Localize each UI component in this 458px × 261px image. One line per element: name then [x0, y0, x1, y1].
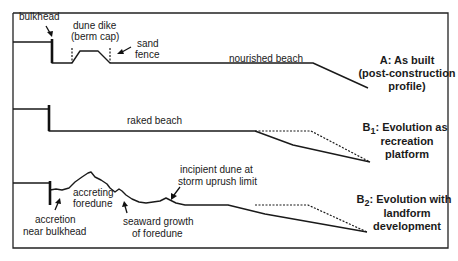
- label-seaward-growth: seaward growth: [123, 216, 194, 227]
- panel-b2-original-profile: [255, 205, 367, 232]
- caption-a-line1: A: As built: [380, 54, 435, 66]
- label-fence: fence: [135, 49, 160, 60]
- label-near-bulkhead: near bulkhead: [23, 226, 86, 237]
- beach-profile-diagram: bulkhead dune dike (berm cap) sand fence…: [0, 0, 458, 261]
- panel-b1: raked beach B1: Evolution as recreation …: [13, 105, 448, 162]
- arrow-incipient-dune-icon: [171, 187, 180, 200]
- caption-b1-line1: B1: Evolution as: [362, 121, 447, 136]
- label-dune-dike: dune dike: [73, 20, 117, 31]
- label-of-foredune: of foredune: [132, 228, 183, 239]
- arrow-sand-fence-icon: [117, 47, 131, 54]
- panel-a-profile: [13, 42, 368, 88]
- label-accreting: accreting: [73, 187, 114, 198]
- panel-b2: accreting foredune accretion near bulkhe…: [13, 164, 452, 239]
- label-foredune: foredune: [73, 198, 113, 209]
- arrow-seaward-growth-icon: [122, 201, 128, 213]
- label-incipient-dune: incipient dune at: [180, 164, 253, 175]
- label-storm-uprush: storm uprush limit: [178, 176, 257, 187]
- arrow-bulkhead-icon: [46, 26, 53, 37]
- caption-b1-line2: recreation: [380, 135, 433, 147]
- label-bulkhead: bulkhead: [19, 11, 60, 22]
- label-nourished-beach: nourished beach: [229, 53, 303, 64]
- panel-a: bulkhead dune dike (berm cap) sand fence…: [13, 11, 456, 92]
- label-raked-beach: raked beach: [127, 115, 182, 126]
- arrow-accretion-icon: [55, 198, 61, 210]
- caption-b2-line3: development: [373, 220, 441, 232]
- caption-b2-line1: B2: Evolution with: [357, 193, 452, 208]
- caption-a-line2: (post-construction: [358, 67, 455, 79]
- caption-b1-line3: platform: [385, 148, 429, 160]
- caption-a-line3: profile): [388, 80, 426, 92]
- caption-b2-line2: landform: [383, 207, 430, 219]
- label-berm-cap: (berm cap): [71, 31, 119, 42]
- panel-b1-profile: [13, 109, 370, 162]
- label-sand: sand: [137, 38, 159, 49]
- panel-b1-original-profile: [255, 131, 370, 162]
- label-accretion: accretion: [35, 214, 76, 225]
